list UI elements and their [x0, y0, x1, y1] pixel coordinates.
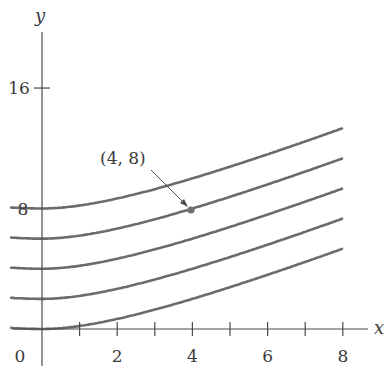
chart: 02468 816 x y (4, 8)	[0, 0, 392, 382]
curve-c-4	[11, 189, 342, 269]
y-tick-label: 8	[18, 199, 29, 219]
x-tick-labels: 02468	[15, 346, 349, 366]
y-axis-label: y	[34, 5, 46, 26]
y-tick-labels: 816	[8, 78, 30, 218]
curve-c-6	[11, 159, 342, 239]
curve-c-2	[11, 219, 342, 299]
annotation-label: (4, 8)	[100, 148, 146, 168]
curve-c-0	[11, 249, 342, 329]
x-tick-label: 2	[112, 346, 123, 366]
x-tick-label: 4	[187, 346, 198, 366]
x-tick-label: 0	[15, 346, 26, 366]
point-marker	[187, 206, 194, 213]
x-axis-label: x	[374, 317, 384, 338]
y-tick-label: 16	[8, 78, 30, 98]
curve-c-8	[11, 129, 342, 209]
x-tick-label: 6	[262, 346, 273, 366]
x-tick-label: 8	[337, 346, 348, 366]
solution-curves	[11, 129, 342, 330]
